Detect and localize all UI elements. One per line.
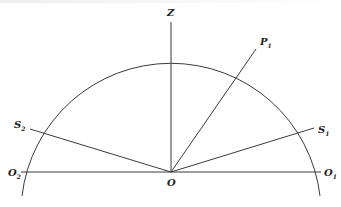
label-O1: O1 <box>324 167 337 180</box>
label-O-center: O <box>167 177 176 188</box>
label-P1: P1 <box>259 36 272 49</box>
segment-O-S1 <box>171 128 314 172</box>
label-Z: Z <box>166 7 175 18</box>
semicircle-diagram: Z P1 S1 S2 O1 O2 O <box>0 0 341 207</box>
segment-O-P1 <box>171 49 256 172</box>
segment-O-S2 <box>30 129 171 172</box>
label-S1: S1 <box>318 124 329 137</box>
label-O2: O2 <box>8 167 21 180</box>
label-S2: S2 <box>14 119 25 132</box>
